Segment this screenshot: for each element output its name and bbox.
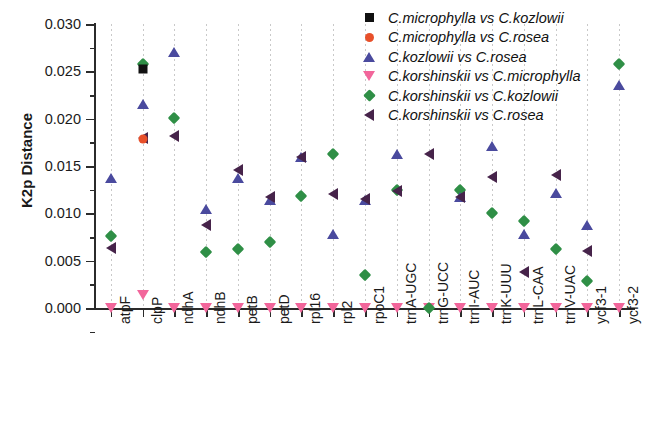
data-point bbox=[392, 185, 402, 197]
legend-item: C.kozlowii vs C.rosea bbox=[358, 47, 581, 67]
data-point bbox=[486, 207, 499, 220]
legend-marker-icon bbox=[358, 33, 380, 42]
y-tick-major bbox=[86, 166, 95, 168]
data-point bbox=[263, 235, 276, 248]
data-point bbox=[613, 80, 625, 90]
data-point bbox=[327, 147, 340, 160]
data-point bbox=[360, 193, 370, 205]
k2p-distance-scatter-chart: K2p Distance 0.0000.0050.0100.0150.0200.… bbox=[0, 0, 653, 438]
data-point bbox=[168, 111, 181, 124]
data-point bbox=[169, 130, 179, 142]
legend-label: C.korshinskii vs C.rosea bbox=[388, 107, 544, 123]
data-point bbox=[549, 243, 562, 256]
grid-line bbox=[301, 24, 302, 308]
legend-label: C.microphylla vs C.kozlowii bbox=[388, 10, 564, 26]
y-tick-label: 0.020 bbox=[0, 111, 81, 127]
legend: C.microphylla vs C.kozlowiiC.microphylla… bbox=[358, 8, 581, 125]
data-point bbox=[517, 215, 530, 228]
data-point bbox=[550, 303, 562, 313]
data-point bbox=[550, 188, 562, 198]
data-point bbox=[327, 303, 339, 313]
data-point bbox=[105, 173, 117, 183]
data-point bbox=[391, 303, 403, 313]
data-point bbox=[295, 190, 308, 203]
data-point bbox=[581, 275, 594, 288]
data-point bbox=[105, 230, 118, 243]
legend-marker-icon bbox=[358, 71, 380, 81]
y-tick-minor bbox=[90, 332, 95, 334]
legend-item: C.korshinskii vs C.kozlowii bbox=[358, 86, 581, 106]
data-point bbox=[518, 303, 530, 313]
y-tick-major bbox=[86, 71, 95, 73]
grid-line bbox=[174, 24, 175, 308]
data-point bbox=[296, 151, 306, 163]
data-point bbox=[359, 268, 372, 281]
data-point bbox=[138, 65, 147, 74]
data-point bbox=[233, 164, 243, 176]
legend-label: C.kozlowii vs C.rosea bbox=[388, 49, 527, 65]
data-point bbox=[168, 47, 180, 57]
y-tick-major bbox=[86, 261, 95, 263]
data-point bbox=[137, 290, 149, 300]
data-point bbox=[327, 229, 339, 239]
y-tick-major bbox=[86, 24, 95, 26]
data-point bbox=[200, 204, 212, 214]
y-tick-label: 0.005 bbox=[0, 253, 81, 269]
data-point bbox=[519, 266, 529, 278]
legend-marker-icon bbox=[358, 91, 380, 100]
legend-marker-icon bbox=[358, 13, 380, 22]
legend-item: C.microphylla vs C.rosea bbox=[358, 28, 581, 48]
data-point bbox=[168, 303, 180, 313]
data-point bbox=[391, 149, 403, 159]
data-point bbox=[138, 134, 147, 143]
grid-line bbox=[270, 24, 271, 308]
grid-line bbox=[111, 24, 112, 308]
data-point bbox=[486, 141, 498, 151]
data-point bbox=[518, 229, 530, 239]
y-tick-major bbox=[86, 308, 95, 310]
legend-item: C.korshinskii vs C.microphylla bbox=[358, 67, 581, 87]
legend-label: C.korshinskii vs C.microphylla bbox=[388, 68, 581, 84]
data-point bbox=[295, 303, 307, 313]
x-tick bbox=[143, 308, 145, 317]
data-point bbox=[487, 171, 497, 183]
legend-item: C.korshinskii vs C.rosea bbox=[358, 106, 581, 126]
legend-label: C.korshinskii vs C.kozlowii bbox=[388, 88, 558, 104]
data-point bbox=[581, 220, 593, 230]
data-point bbox=[232, 243, 245, 256]
y-tick-label: 0.010 bbox=[0, 205, 81, 221]
legend-marker-icon bbox=[358, 52, 380, 62]
data-point bbox=[581, 303, 593, 313]
y-tick-label: 0.025 bbox=[0, 63, 81, 79]
data-point bbox=[582, 245, 592, 257]
data-point bbox=[455, 191, 465, 203]
data-point bbox=[328, 188, 338, 200]
data-point bbox=[200, 303, 212, 313]
legend-label: C.microphylla vs C.rosea bbox=[388, 29, 549, 45]
grid-line bbox=[587, 24, 588, 308]
data-point bbox=[106, 242, 116, 254]
data-point bbox=[486, 303, 498, 313]
y-tick-label: 0.015 bbox=[0, 158, 81, 174]
data-point bbox=[551, 169, 561, 181]
data-point bbox=[137, 99, 149, 109]
y-tick-major bbox=[86, 213, 95, 215]
y-tick-label: 0.000 bbox=[0, 300, 81, 316]
legend-marker-icon bbox=[358, 109, 380, 121]
grid-line bbox=[206, 24, 207, 308]
data-point bbox=[232, 303, 244, 313]
data-point bbox=[200, 246, 213, 259]
data-point bbox=[201, 219, 211, 231]
data-point bbox=[613, 57, 626, 70]
data-point bbox=[424, 148, 434, 160]
data-point bbox=[265, 191, 275, 203]
y-tick-major bbox=[86, 119, 95, 121]
legend-item: C.microphylla vs C.kozlowii bbox=[358, 8, 581, 28]
data-point bbox=[264, 303, 276, 313]
data-point bbox=[359, 303, 371, 313]
grid-line bbox=[333, 24, 334, 308]
data-point bbox=[454, 303, 466, 313]
data-point bbox=[613, 303, 625, 313]
data-point bbox=[105, 303, 117, 313]
y-tick-label: 0.030 bbox=[0, 16, 81, 32]
